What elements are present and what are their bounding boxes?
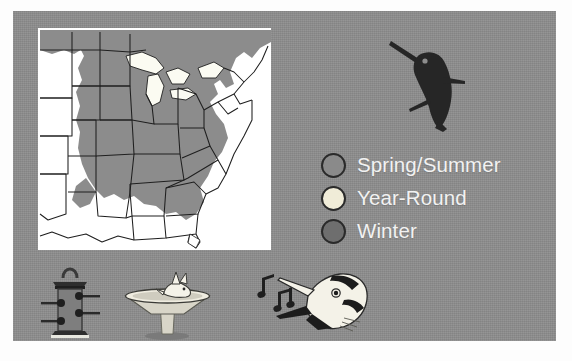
music-note-icon: [256, 274, 295, 313]
singing-bird-icon: [256, 266, 371, 341]
backyard-birding-icon-strip: [13, 254, 556, 341]
legend: Spring/Summer Year-Round Winter: [321, 149, 551, 248]
bird-bath-icon: [120, 268, 215, 340]
legend-item-winter[interactable]: Winter: [321, 215, 551, 248]
legend-swatch-spring-summer: [321, 153, 346, 178]
bird-feeder-icon: [33, 262, 105, 340]
range-map: [38, 28, 271, 250]
legend-swatch-year-round: [321, 186, 346, 211]
hummingbird-eye-icon: [422, 58, 427, 63]
hummingbird-silhouette-icon: [385, 33, 477, 133]
legend-item-spring-summer[interactable]: Spring/Summer: [321, 149, 551, 182]
gray-panel: Spring/Summer Year-Round Winter: [13, 11, 556, 341]
legend-swatch-winter: [321, 219, 346, 244]
range-map-svg: [38, 28, 271, 250]
legend-label-year-round: Year-Round: [357, 188, 467, 209]
legend-item-year-round[interactable]: Year-Round: [321, 182, 551, 215]
legend-label-spring-summer: Spring/Summer: [357, 155, 501, 176]
figure-container: Spring/Summer Year-Round Winter: [0, 0, 572, 361]
legend-label-winter: Winter: [357, 221, 417, 242]
bathing-bird-icon: [156, 272, 191, 297]
